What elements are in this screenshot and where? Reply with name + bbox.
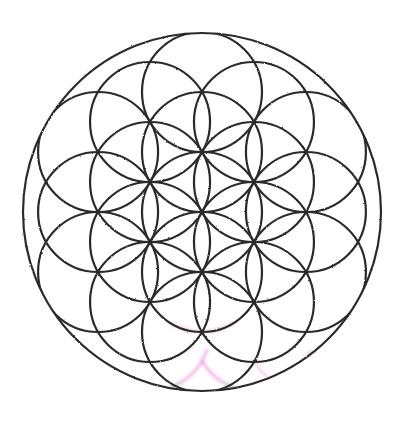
flower-of-life-drawing [0, 0, 405, 432]
paper-background [0, 0, 405, 432]
image-canvas [0, 0, 405, 432]
